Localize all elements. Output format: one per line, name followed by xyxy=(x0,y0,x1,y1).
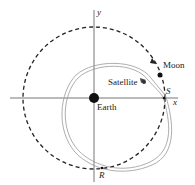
satellite-icon xyxy=(142,80,146,84)
satellite-label: Satellite xyxy=(108,77,138,87)
earth-label: Earth xyxy=(97,102,117,112)
point-s-marker xyxy=(163,97,166,100)
point-s-label: S xyxy=(166,86,171,96)
point-r-marker xyxy=(101,167,104,170)
point-r-label: R xyxy=(99,170,105,180)
moon-icon xyxy=(158,73,163,78)
moon-label: Moon xyxy=(163,60,185,70)
y-axis-label: y xyxy=(97,7,101,17)
x-axis-label: x xyxy=(173,97,177,107)
orbit-diagram: y x Moon Satellite Earth S R xyxy=(0,0,195,185)
